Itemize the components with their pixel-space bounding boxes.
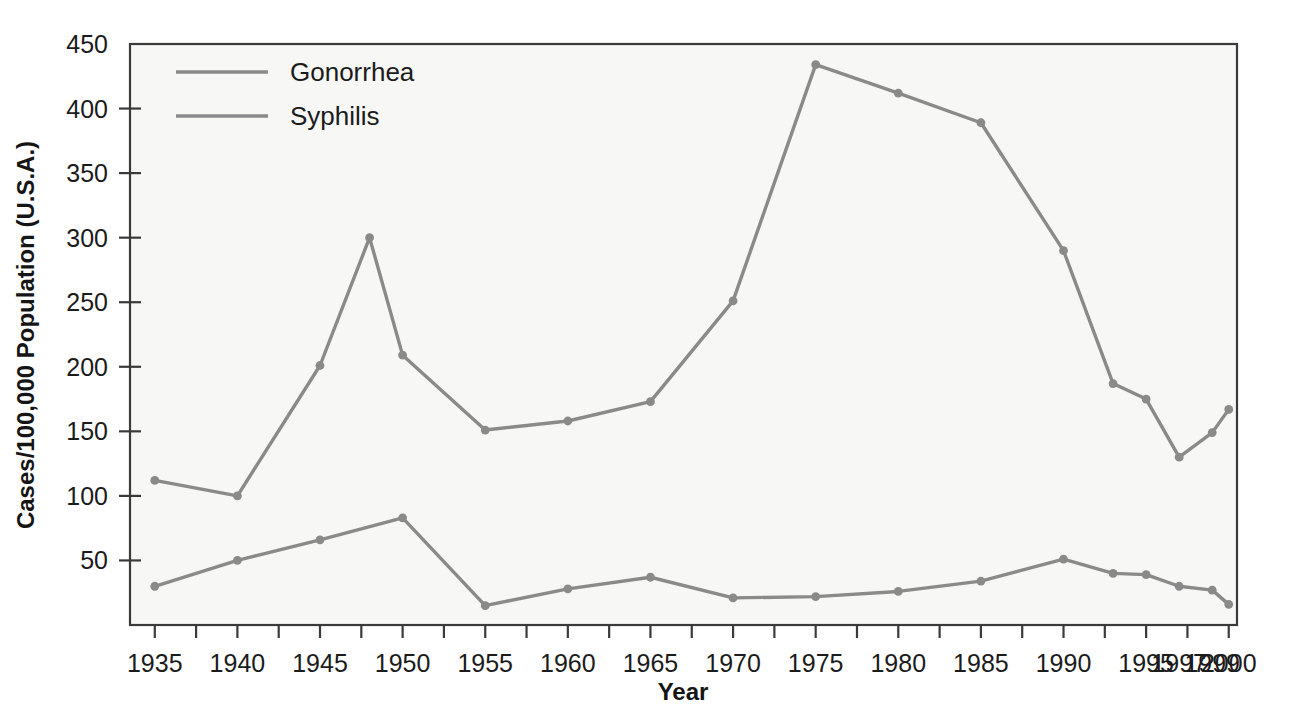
data-point	[563, 584, 572, 593]
x-tick-label: 1955	[457, 649, 513, 677]
x-tick-label: 1935	[127, 649, 183, 677]
data-point	[894, 587, 903, 596]
x-tick-label: 1945	[292, 649, 348, 677]
x-tick-label: 1940	[210, 649, 266, 677]
chart-container: 1935194019451950195519601965197019751980…	[0, 0, 1313, 728]
y-tick-label: 350	[66, 159, 108, 187]
x-tick-label: 1980	[870, 649, 926, 677]
data-point	[563, 417, 572, 426]
data-point	[1224, 600, 1233, 609]
data-point	[729, 593, 738, 602]
data-point	[646, 397, 655, 406]
x-tick-label: 1960	[540, 649, 596, 677]
data-point	[316, 535, 325, 544]
data-point	[646, 573, 655, 582]
data-point	[398, 351, 407, 360]
y-tick-label: 150	[66, 417, 108, 445]
y-axis-title: Cases/100,000 Population (U.S.A.)	[12, 141, 39, 529]
x-tick-label: 1985	[953, 649, 1009, 677]
data-point	[398, 513, 407, 522]
y-tick-label: 50	[80, 546, 108, 574]
x-axis-title: Year	[658, 678, 709, 705]
data-point	[1059, 246, 1068, 255]
legend-label: Gonorrhea	[290, 57, 415, 87]
data-point	[729, 297, 738, 306]
data-point	[811, 592, 820, 601]
data-point	[977, 577, 986, 586]
y-tick-label: 100	[66, 482, 108, 510]
data-point	[1059, 555, 1068, 564]
data-point	[1208, 586, 1217, 595]
data-point	[316, 361, 325, 370]
data-point	[977, 118, 986, 127]
data-point	[233, 491, 242, 500]
data-point	[894, 89, 903, 98]
line-chart: 1935194019451950195519601965197019751980…	[0, 0, 1313, 728]
y-tick-label: 250	[66, 288, 108, 316]
x-tick-label: 1950	[375, 649, 431, 677]
data-point	[1208, 428, 1217, 437]
x-tick-label: 2000	[1201, 649, 1257, 677]
data-point	[365, 233, 374, 242]
data-point	[233, 556, 242, 565]
y-tick-label: 300	[66, 224, 108, 252]
data-point	[481, 601, 490, 610]
data-point	[1224, 405, 1233, 414]
data-point	[1142, 570, 1151, 579]
data-point	[481, 426, 490, 435]
data-point	[1109, 569, 1118, 578]
data-point	[150, 582, 159, 591]
data-point	[150, 476, 159, 485]
x-tick-label: 1965	[623, 649, 679, 677]
data-point	[811, 60, 820, 69]
data-point	[1175, 582, 1184, 591]
plot-background	[130, 44, 1237, 625]
x-tick-label: 1990	[1036, 649, 1092, 677]
data-point	[1109, 379, 1118, 388]
data-point	[1142, 395, 1151, 404]
x-tick-label: 1975	[788, 649, 844, 677]
y-tick-label: 450	[66, 30, 108, 58]
x-tick-label: 1970	[705, 649, 761, 677]
y-tick-label: 400	[66, 95, 108, 123]
data-point	[1175, 453, 1184, 462]
y-tick-label: 200	[66, 353, 108, 381]
y-axis-tick-labels: 50100150200250300350400450	[66, 30, 108, 574]
legend-label: Syphilis	[290, 101, 380, 131]
